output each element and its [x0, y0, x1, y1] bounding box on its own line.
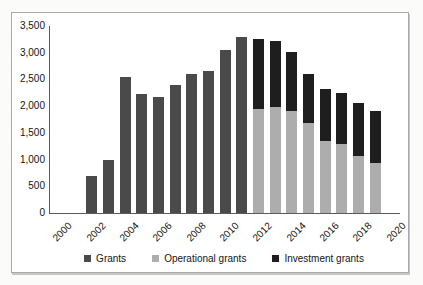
x-tick-label: 2006	[144, 220, 174, 250]
bar-investment-grants-2019	[370, 111, 381, 163]
chart-figure: 05001,0001,5002,0002,5003,0003,500 20002…	[11, 12, 409, 273]
x-tick-label: 2016	[310, 220, 340, 250]
bar-investment-grants-2018	[353, 103, 364, 155]
bar-operational-grants-2016	[320, 141, 331, 213]
x-tick-label: 2008	[177, 220, 207, 250]
legend-item-investment-grants: Investment grants	[272, 253, 363, 264]
x-tick-label: 2000	[44, 220, 74, 250]
bar-grants-2004	[120, 77, 131, 213]
bar-grants-2011	[236, 37, 247, 213]
y-tick-label: 1,000	[12, 154, 45, 166]
bar-grants-2007	[170, 85, 181, 213]
x-tick-label: 2004	[110, 220, 140, 250]
bar-investment-grants-2013	[270, 41, 281, 107]
legend-swatch-operational-grants	[152, 255, 159, 262]
x-tick-label: 2002	[77, 220, 107, 250]
y-tick-label: 2,500	[12, 73, 45, 85]
bar-grants-2003	[103, 160, 114, 213]
bar-grants-2006	[153, 97, 164, 213]
y-tick-label: 2,000	[12, 100, 45, 112]
bar-investment-grants-2014	[286, 52, 297, 111]
legend-label: Grants	[96, 253, 126, 264]
bar-operational-grants-2013	[270, 107, 281, 213]
bar-grants-2010	[220, 50, 231, 213]
y-tick-label: 1,500	[12, 127, 45, 139]
bar-grants-2005	[136, 94, 147, 213]
bar-operational-grants-2019	[370, 163, 381, 213]
bar-operational-grants-2014	[286, 111, 297, 213]
bar-grants-2008	[186, 74, 197, 213]
y-tick-label: 0	[12, 207, 45, 219]
bar-operational-grants-2015	[303, 123, 314, 213]
x-tick-label: 2020	[377, 220, 407, 250]
bar-operational-grants-2017	[336, 144, 347, 213]
x-tick-label: 2014	[277, 220, 307, 250]
bar-investment-grants-2017	[336, 93, 347, 144]
bar-grants-2002	[86, 176, 97, 213]
bar-operational-grants-2018	[353, 156, 364, 213]
x-tick-label: 2010	[210, 220, 240, 250]
y-tick-label: 3,000	[12, 47, 45, 59]
bar-investment-grants-2016	[320, 89, 331, 141]
legend-item-grants: Grants	[84, 253, 126, 264]
legend-swatch-grants	[84, 255, 91, 262]
bar-grants-2009	[203, 71, 214, 213]
plot-area	[49, 26, 400, 214]
legend-label: Investment grants	[284, 253, 363, 264]
legend-swatch-investment-grants	[272, 255, 279, 262]
y-tick-label: 500	[12, 180, 45, 192]
legend: GrantsOperational grantsInvestment grant…	[49, 252, 399, 265]
bar-investment-grants-2012	[253, 39, 264, 108]
y-tick-label: 3,500	[12, 20, 45, 32]
bar-investment-grants-2015	[303, 74, 314, 123]
x-tick-label: 2012	[244, 220, 274, 250]
legend-label: Operational grants	[164, 253, 246, 264]
legend-item-operational-grants: Operational grants	[152, 253, 246, 264]
bar-operational-grants-2012	[253, 109, 264, 213]
x-tick-label: 2018	[344, 220, 374, 250]
